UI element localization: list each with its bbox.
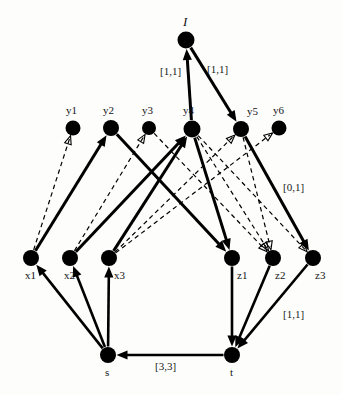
node-z1[interactable] <box>224 250 240 266</box>
edge-y5-to-z2 <box>243 137 270 246</box>
edge-z3-to-t <box>240 265 307 346</box>
node-y4[interactable] <box>184 121 201 138</box>
node-label-t: t <box>230 366 233 378</box>
node-x2[interactable] <box>62 250 78 266</box>
node-x3[interactable] <box>101 250 117 266</box>
label-z3-t: [1,1] <box>283 308 304 320</box>
node-y1[interactable] <box>66 121 81 136</box>
edge-s-to-x2 <box>75 270 105 347</box>
node-s[interactable] <box>100 347 116 363</box>
label-y4-I: [1,1] <box>160 65 181 77</box>
label-y5-z3: [0,1] <box>283 181 304 193</box>
edge-x1-to-y1 <box>34 139 70 250</box>
arrowhead-y5-to-z2 <box>266 241 273 250</box>
network-flow-diagram: Iy1y2y3y4y5y6x1x2x3z1z2z3st [1,1][1,1][0… <box>0 0 342 395</box>
node-label-x3: x3 <box>114 269 125 281</box>
node-label-I: I <box>183 14 187 30</box>
node-t[interactable] <box>224 347 240 363</box>
edge-x2-to-y4 <box>76 139 183 252</box>
node-I[interactable] <box>178 32 195 49</box>
node-label-s: s <box>105 366 109 378</box>
node-label-y5: y5 <box>247 105 258 117</box>
label-t-s: [3,3] <box>155 360 176 372</box>
node-z2[interactable] <box>265 250 281 266</box>
node-y6[interactable] <box>272 121 287 136</box>
node-y2[interactable] <box>103 120 119 136</box>
node-label-z1: z1 <box>237 269 247 281</box>
edge-s-to-x3 <box>108 271 109 347</box>
node-label-z2: z2 <box>275 269 285 281</box>
arrowhead-x3-to-y6 <box>264 133 273 141</box>
node-label-y6: y6 <box>273 104 284 116</box>
arrowhead-y4-to-I <box>183 49 192 60</box>
arrowhead-x2-to-y3 <box>138 134 145 143</box>
arrowhead-t-to-s <box>117 350 128 359</box>
node-z3[interactable] <box>305 250 321 266</box>
edge-I-to-y5 <box>191 48 234 118</box>
arrowhead-z1-to-t <box>227 336 236 347</box>
node-label-y1: y1 <box>66 104 77 116</box>
node-label-x2: x2 <box>64 269 75 281</box>
label-I-y5: [1,1] <box>207 63 228 75</box>
arrowhead-x1-to-y1 <box>65 136 71 145</box>
node-y5[interactable] <box>233 121 249 137</box>
node-x1[interactable] <box>23 250 39 266</box>
node-label-x1: x1 <box>25 269 36 281</box>
arrowhead-s-to-x3 <box>104 266 113 277</box>
node-label-y2: y2 <box>103 104 114 116</box>
node-label-z3: z3 <box>315 269 325 281</box>
graph-canvas <box>0 0 342 395</box>
edges-layer <box>34 48 309 360</box>
edge-x3-to-y6 <box>116 135 270 253</box>
edge-y4-to-z1 <box>195 138 228 246</box>
node-label-y3: y3 <box>142 104 153 116</box>
node-label-y4: y4 <box>183 104 194 116</box>
node-y3[interactable] <box>142 121 156 135</box>
